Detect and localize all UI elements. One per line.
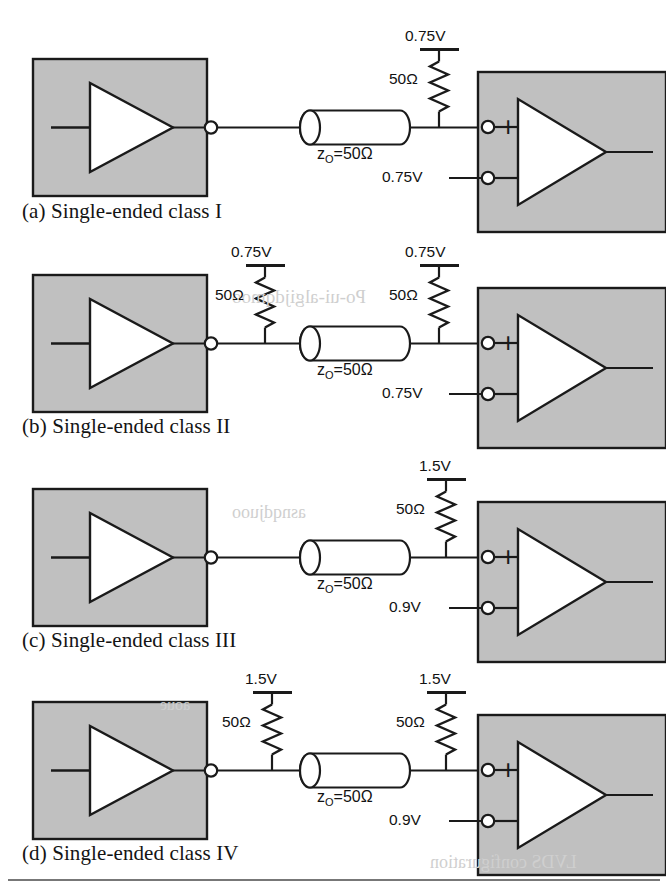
z-value: =50Ω [334,361,373,378]
caption-a: (a) Single-ended class I [22,199,222,224]
caption-b: (b) Single-ended class II [22,414,230,439]
supply-label-d-src: 1.5V [245,670,277,688]
z-symbol: z [317,575,325,592]
z-symbol: z [317,361,325,378]
resistor-label-b-src: 50Ω [215,286,244,304]
z-subscript: O [325,796,334,808]
z-value: =50Ω [334,788,373,805]
supply-label-a-far: 0.75V [405,27,446,45]
z-subscript: O [325,153,334,165]
line-impedance-label-d: zO=50Ω [317,788,373,808]
z-value: =50Ω [334,575,373,592]
svg-text:−: − [500,162,516,193]
supply-label-d-far: 1.5V [419,670,451,688]
circuit-diagram: + − + − [0,0,666,894]
supply-label-b-src: 0.75V [231,243,272,261]
caption-c: (c) Single-ended class III [22,628,236,653]
resistor-label-d-far: 50Ω [396,713,425,731]
line-impedance-label-c: zO=50Ω [317,575,373,595]
vref-label-b: 0.75V [382,384,423,402]
vref-label-d: 0.9V [389,811,421,829]
resistor-label-c-far: 50Ω [396,500,425,518]
resistor-label-d-src: 50Ω [222,713,251,731]
svg-text:+: + [500,111,516,142]
z-value: =50Ω [334,145,373,162]
svg-text:−: − [500,378,516,409]
line-impedance-label-b: zO=50Ω [317,361,373,381]
supply-label-c-far: 1.5V [419,457,451,475]
line-impedance-label-a: zO=50Ω [317,145,373,165]
svg-text:+: + [500,754,516,785]
resistor-label-a-far: 50Ω [389,70,418,88]
svg-text:+: + [500,541,516,572]
vref-label-a: 0.75V [382,168,423,186]
z-symbol: z [317,145,325,162]
caption-d: (d) Single-ended class IV [22,841,239,866]
svg-text:−: − [500,805,516,836]
supply-label-b-far: 0.75V [405,243,446,261]
figure-sheet: + − + − [0,0,666,894]
svg-text:+: + [500,327,516,358]
z-subscript: O [325,583,334,595]
svg-text:−: − [500,592,516,623]
z-symbol: z [317,788,325,805]
resistor-label-b-far: 50Ω [389,286,418,304]
z-subscript: O [325,369,334,381]
vref-label-c: 0.9V [389,598,421,616]
